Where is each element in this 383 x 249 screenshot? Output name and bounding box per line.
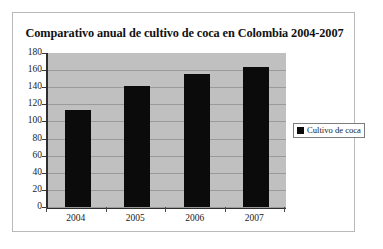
x-axis-tick [284, 207, 285, 212]
y-axis-tick [42, 156, 46, 157]
x-axis-tick-label: 2005 [106, 214, 166, 224]
gridline [48, 207, 286, 208]
y-axis-tick [42, 70, 46, 71]
legend-label: Cultivo de coca [307, 126, 361, 135]
y-axis-tick-label: 160 [16, 65, 42, 75]
y-axis-tick-label: 180 [16, 48, 42, 58]
x-axis-tick-label: 2004 [46, 214, 106, 224]
chart-legend: Cultivo de coca [293, 123, 365, 138]
y-axis-tick-label: 140 [16, 82, 42, 92]
bar-2005[interactable] [124, 86, 150, 207]
y-axis-tick [42, 121, 46, 122]
y-axis-tick-label: 80 [16, 134, 42, 144]
plot-inner [48, 53, 286, 207]
y-axis-label-group: 180160140120100806040200 [13, 53, 42, 207]
y-axis-tick [42, 104, 46, 105]
y-axis-tick [42, 87, 46, 88]
y-axis-tick [42, 173, 46, 174]
x-axis-tick [165, 207, 166, 212]
x-axis-tick [225, 207, 226, 212]
y-axis-tick-label: 100 [16, 116, 42, 126]
bar-2007[interactable] [243, 67, 269, 207]
bar-2004[interactable] [65, 110, 91, 207]
chart-title: Comparativo anual de cultivo de coca en … [13, 26, 356, 41]
plot-area [46, 53, 286, 209]
y-axis-tick-label: 20 [16, 185, 42, 195]
y-axis-tick [42, 53, 46, 54]
x-axis-tick-label: 2006 [165, 214, 225, 224]
bar-2006[interactable] [184, 74, 210, 207]
y-axis-tick-label: 40 [16, 168, 42, 178]
y-axis-tick-label: 0 [16, 202, 42, 212]
x-axis-tick [106, 207, 107, 212]
legend-swatch-icon [297, 127, 304, 134]
chart-frame: Comparativo anual de cultivo de coca en … [12, 12, 355, 232]
y-axis-tick-label: 60 [16, 151, 42, 161]
x-axis-tick-label: 2007 [225, 214, 285, 224]
y-axis-tick [42, 190, 46, 191]
x-axis-tick [46, 207, 47, 212]
y-axis-tick-label: 120 [16, 99, 42, 109]
y-axis-tick [42, 139, 46, 140]
